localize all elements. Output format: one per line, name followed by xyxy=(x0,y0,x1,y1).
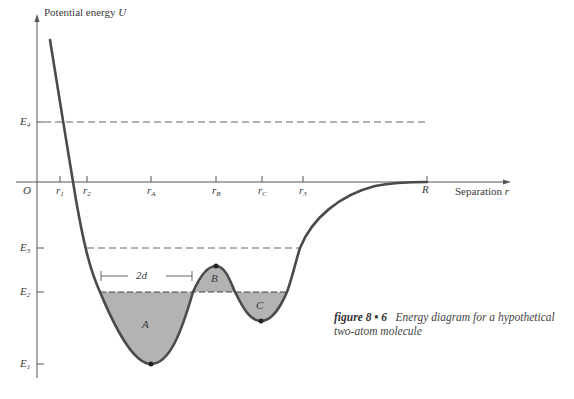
y-axis-arrow xyxy=(35,14,40,22)
x-ticks xyxy=(60,176,427,182)
figure-caption: figure 8 • 6 Energy diagram for a hypoth… xyxy=(334,310,574,338)
max-b-dot xyxy=(214,264,219,269)
width-2d-label: 2d xyxy=(136,269,147,281)
x-axis-label: Separation r xyxy=(455,185,509,197)
tick-R: R xyxy=(422,183,429,195)
tick-ra: rA xyxy=(147,184,156,198)
x-axis-arrow xyxy=(503,180,511,185)
x-axis-label-text: Separation xyxy=(455,185,502,197)
region-c-label: C xyxy=(256,299,263,311)
tick-rb: rB xyxy=(212,184,221,198)
x-axis-symbol: r xyxy=(505,185,509,197)
region-b-label: B xyxy=(211,272,218,284)
label-e4: E4 xyxy=(20,115,30,129)
origin-label: O xyxy=(23,184,31,196)
label-e2: E2 xyxy=(20,285,30,299)
y-ticks xyxy=(37,122,44,364)
tick-r1: r1 xyxy=(56,184,64,198)
min-a-dot xyxy=(149,362,154,367)
tick-r2: r2 xyxy=(83,184,91,198)
y-axis-label-text: Potential energy xyxy=(44,6,116,18)
label-e3: E3 xyxy=(20,241,30,255)
energy-diagram xyxy=(0,0,574,399)
y-axis-label: Potential energy U xyxy=(44,6,126,18)
min-c-dot xyxy=(259,319,264,324)
region-a-label: A xyxy=(142,318,149,330)
figure-number: figure 8 • 6 xyxy=(334,311,387,323)
label-e1: E1 xyxy=(20,357,30,371)
tick-rc: rC xyxy=(258,184,267,198)
y-axis-symbol: U xyxy=(118,6,126,18)
tick-r3: r3 xyxy=(299,184,307,198)
